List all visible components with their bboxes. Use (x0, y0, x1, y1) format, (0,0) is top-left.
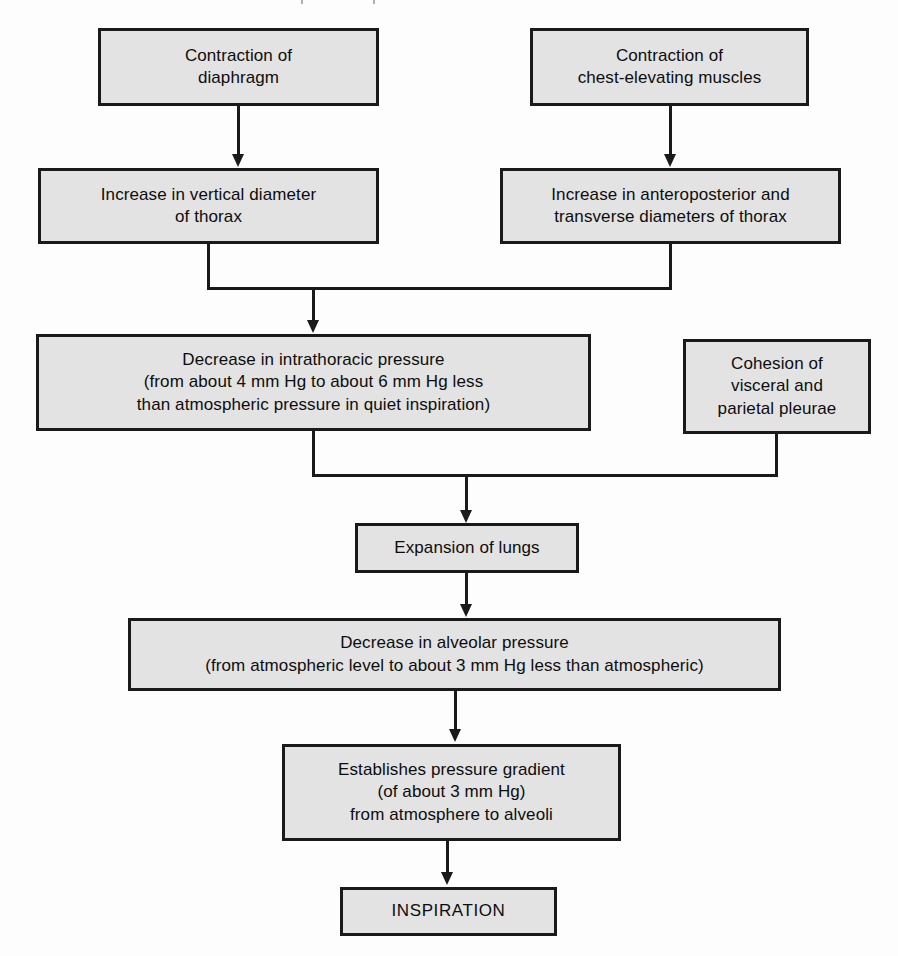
node-contraction-of-diaphragm[interactable]: Contraction of diaphragm (98, 28, 379, 106)
connector-chest-muscles-to-ap-transverse (669, 106, 672, 156)
node-contraction-of-chest-elevating-muscles[interactable]: Contraction of chest-elevating muscles (530, 28, 809, 106)
connector-expansion-to-alveolar-pressure (465, 573, 468, 605)
connector-merge-to-expansion (465, 474, 468, 512)
connector-vertical-diameter-drop (207, 244, 210, 289)
node-cohesion-of-visceral-and-parietal-pleurae[interactable]: Cohesion of visceral and parietal pleura… (683, 339, 871, 434)
arrowhead-alveolar-to-gradient (449, 729, 461, 742)
connector-pressure-cohesion-merge-bar (312, 474, 778, 477)
connector-diaphragm-to-vertical-diameter (237, 106, 240, 156)
arrowhead-diaphragm-to-vertical-diameter (232, 154, 244, 167)
connector-gradient-to-inspiration (446, 841, 449, 875)
arrowhead-chest-muscles-to-ap-transverse (664, 154, 676, 167)
flowchart-canvas: Contraction of diaphragm Contraction of … (0, 0, 898, 956)
connector-cohesion-drop (775, 434, 778, 476)
clipped-text-speck (301, 0, 303, 4)
node-label: Increase in anteroposterior and transver… (509, 184, 832, 229)
node-increase-in-anteroposterior-and-transverse-diameters[interactable]: Increase in anteroposterior and transver… (500, 168, 841, 244)
connector-ap-transverse-drop (669, 244, 672, 289)
arrowhead-thorax-merge-to-intrathoracic-pressure (307, 320, 319, 333)
connector-intrathoracic-pressure-drop (312, 431, 315, 476)
node-decrease-in-alveolar-pressure[interactable]: Decrease in alveolar pressure (from atmo… (128, 618, 781, 691)
arrowhead-expansion-to-alveolar-pressure (460, 604, 472, 617)
node-expansion-of-lungs[interactable]: Expansion of lungs (355, 523, 579, 573)
node-label: Establishes pressure gradient (of about … (291, 759, 612, 826)
node-inspiration[interactable]: INSPIRATION (340, 887, 557, 936)
clipped-text-speck (373, 0, 375, 4)
node-label: Increase in vertical diameter of thorax (47, 184, 370, 229)
connector-alveolar-to-gradient (454, 691, 457, 731)
arrowhead-gradient-to-inspiration (441, 872, 453, 885)
node-label: Decrease in intrathoracic pressure (from… (45, 349, 582, 416)
node-label: Cohesion of visceral and parietal pleura… (692, 353, 862, 420)
arrowhead-merge-to-expansion (460, 510, 472, 523)
connector-thorax-merge-to-intrathoracic-pressure (312, 287, 315, 322)
node-label: Contraction of diaphragm (107, 45, 370, 90)
node-increase-in-vertical-diameter-of-thorax[interactable]: Increase in vertical diameter of thorax (38, 168, 379, 244)
connector-thorax-merge-bar (207, 287, 672, 290)
node-decrease-in-intrathoracic-pressure[interactable]: Decrease in intrathoracic pressure (from… (36, 334, 591, 431)
node-label: Expansion of lungs (364, 537, 570, 559)
node-label: INSPIRATION (349, 900, 548, 922)
node-label: Decrease in alveolar pressure (from atmo… (137, 632, 772, 677)
node-establishes-pressure-gradient[interactable]: Establishes pressure gradient (of about … (282, 744, 621, 841)
node-label: Contraction of chest-elevating muscles (539, 45, 800, 90)
